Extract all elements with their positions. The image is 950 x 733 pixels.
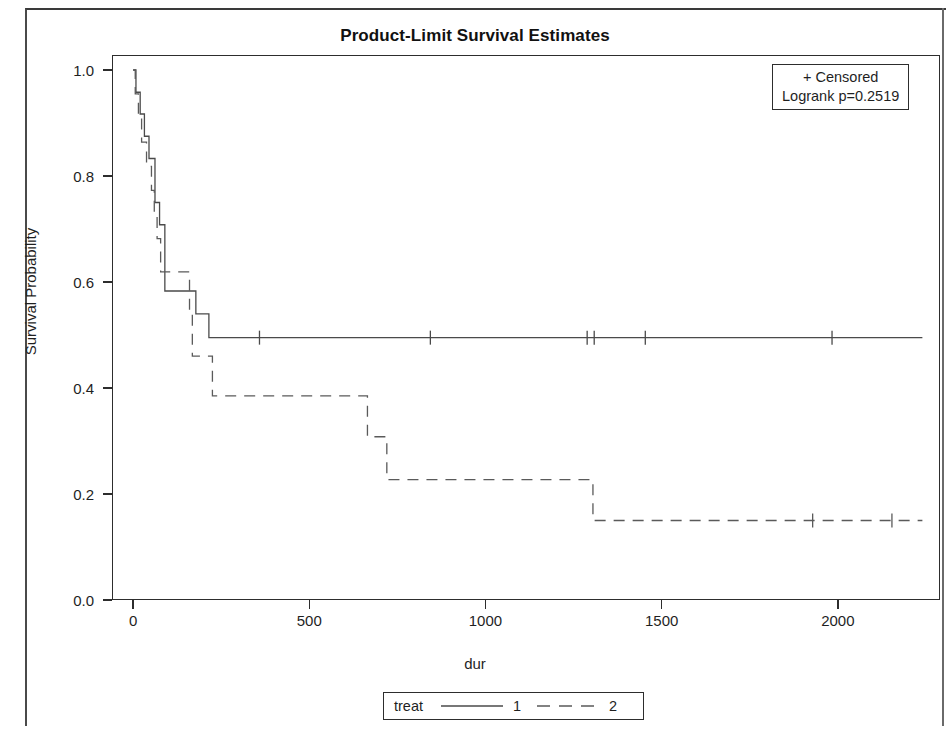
x-tick-label: 500 <box>269 612 349 629</box>
chart-title: Product-Limit Survival Estimates <box>0 26 950 46</box>
x-tick-mark <box>485 600 487 609</box>
y-tick-label: 0.4 <box>34 380 94 397</box>
x-axis-title: dur <box>0 655 950 672</box>
censored-legend-text: + Censored <box>782 68 899 87</box>
y-tick-mark <box>103 387 112 389</box>
y-axis-title: Survival Probability <box>22 162 39 422</box>
curves-group <box>133 70 922 528</box>
x-tick-label: 0 <box>93 612 173 629</box>
x-tick-mark <box>309 600 311 609</box>
legend-entry-1: 1 <box>441 698 523 714</box>
survival-curve-1 <box>133 70 922 338</box>
y-tick-label: 0.8 <box>34 168 94 185</box>
y-tick-mark <box>103 493 112 495</box>
series-legend: treat 1 2 <box>383 692 644 720</box>
survival-curve-2 <box>133 70 922 521</box>
x-tick-label: 1000 <box>445 612 525 629</box>
y-tick-label: 0.6 <box>34 274 94 291</box>
legend-label-1: 1 <box>513 698 523 714</box>
survival-curves-plot <box>112 55 940 600</box>
y-tick-mark <box>103 69 112 71</box>
y-tick-label: 0.0 <box>34 592 94 609</box>
y-tick-mark <box>103 599 112 601</box>
y-tick-mark <box>103 281 112 283</box>
y-tick-label: 1.0 <box>34 62 94 79</box>
solid-line-swatch-icon <box>441 701 503 711</box>
x-tick-mark <box>837 600 839 609</box>
x-tick-label: 1500 <box>622 612 702 629</box>
legend-title: treat <box>394 698 423 714</box>
logrank-p-value-text: Logrank p=0.2519 <box>782 87 899 106</box>
y-tick-label: 0.2 <box>34 486 94 503</box>
x-tick-mark <box>661 600 663 609</box>
statistics-inset-box: + Censored Logrank p=0.2519 <box>772 64 909 110</box>
legend-label-2: 2 <box>609 698 619 714</box>
page-border-right <box>942 8 944 726</box>
x-tick-label: 2000 <box>798 612 878 629</box>
legend-entry-2: 2 <box>537 698 619 714</box>
x-tick-mark <box>132 600 134 609</box>
y-tick-mark <box>103 175 112 177</box>
chart-page: Product-Limit Survival Estimates 0.00.20… <box>0 0 950 733</box>
dashed-line-swatch-icon <box>537 701 599 711</box>
